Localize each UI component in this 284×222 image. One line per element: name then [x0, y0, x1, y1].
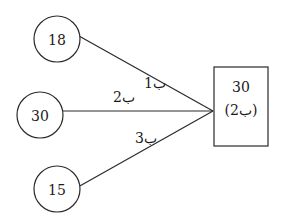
node-3: 15	[34, 166, 80, 212]
target-box-sublabel: (ب2)	[225, 102, 258, 118]
node-value: 15	[48, 182, 66, 198]
edge-label-1: ب1	[144, 75, 166, 91]
diagram-svg: 18 30 15 ب1 ب2 ب3 30 (ب2)	[0, 0, 284, 222]
edge-label-3: ب3	[135, 130, 157, 146]
target-box: 30 (ب2)	[214, 67, 268, 146]
diagram-canvas: 18 30 15 ب1 ب2 ب3 30 (ب2)	[0, 0, 284, 222]
node-1: 18	[34, 16, 80, 62]
edge-line-3	[78, 111, 213, 187]
node-2: 30	[17, 92, 63, 138]
target-box-value: 30	[232, 79, 250, 95]
edge-label-2: ب2	[113, 89, 135, 105]
edge-line-1	[79, 36, 213, 111]
node-value: 18	[48, 32, 66, 48]
node-value: 30	[31, 108, 49, 124]
